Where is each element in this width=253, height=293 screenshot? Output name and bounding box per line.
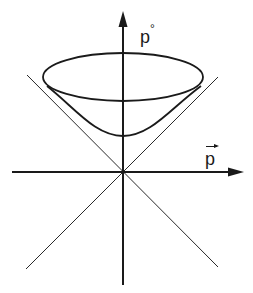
energy-axis-arrowhead-icon xyxy=(119,11,128,27)
energy-axis-label-text: p xyxy=(140,27,150,47)
vector-arrow-icon xyxy=(214,144,219,148)
momentum-axis-label: p xyxy=(205,150,215,168)
momentum-axis-arrowhead-icon xyxy=(228,168,244,177)
energy-axis-label: p° xyxy=(140,26,155,46)
energy-axis-superscript: ° xyxy=(150,22,155,36)
origin-point xyxy=(121,170,125,174)
